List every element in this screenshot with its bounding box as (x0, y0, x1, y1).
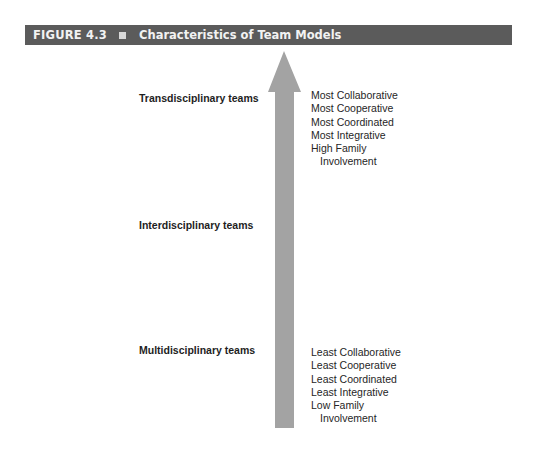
characteristic-item: Most Collaborative (311, 89, 398, 102)
characteristic-item: Least Coordinated (311, 373, 401, 386)
characteristic-item: Least Collaborative (311, 346, 401, 359)
bottom-characteristics-list: Least Collaborative Least Cooperative Le… (311, 346, 401, 426)
characteristic-item: Involvement (311, 155, 398, 168)
team-label-transdisciplinary: Transdisciplinary teams (139, 92, 259, 105)
arrow-up-icon (268, 51, 301, 428)
team-label-interdisciplinary: Interdisciplinary teams (139, 219, 253, 232)
characteristic-item: Low Family (311, 399, 401, 412)
characteristic-item: Least Integrative (311, 386, 401, 399)
characteristic-item: Involvement (311, 412, 401, 425)
characteristic-item: Most Integrative (311, 129, 398, 142)
characteristic-item: High Family (311, 142, 398, 155)
top-characteristics-list: Most Collaborative Most Cooperative Most… (311, 89, 398, 169)
characteristic-item: Most Coordinated (311, 116, 398, 129)
team-label-multidisciplinary: Multidisciplinary teams (139, 344, 255, 357)
characteristic-item: Least Cooperative (311, 359, 401, 372)
characteristic-item: Most Cooperative (311, 102, 398, 115)
collaboration-arrow (0, 0, 537, 457)
